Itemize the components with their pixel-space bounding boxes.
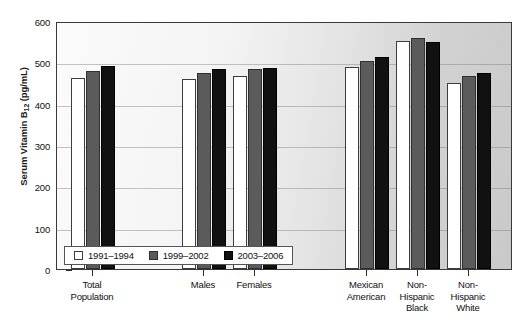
legend-item: 1999–2002 xyxy=(149,250,209,261)
bar xyxy=(182,79,196,269)
y-axis-tick-label: 400 xyxy=(20,99,50,110)
x-axis-tick-mark xyxy=(366,270,367,276)
bar xyxy=(447,83,461,269)
y-axis-tick-label: 600 xyxy=(20,17,50,28)
grid-line xyxy=(57,147,511,148)
x-axis-category-line: Non- xyxy=(425,279,511,291)
y-axis-tick-label: 300 xyxy=(20,141,50,152)
bar xyxy=(197,73,211,269)
bar xyxy=(248,69,262,269)
bar xyxy=(263,68,277,269)
bar xyxy=(345,67,359,269)
x-axis-tick-mark xyxy=(203,270,204,276)
x-axis-category-line: White xyxy=(425,302,511,314)
grid-line xyxy=(57,64,511,65)
bar xyxy=(101,66,115,269)
y-axis-tick-label: 100 xyxy=(20,223,50,234)
x-axis-category-line: Population xyxy=(49,291,135,303)
chart-legend: 1991–1994 1999–2002 2003–2006 xyxy=(64,246,293,265)
x-axis-category-line: Females xyxy=(211,279,297,291)
bar xyxy=(375,57,389,269)
bar xyxy=(71,78,85,269)
x-axis-labels: TotalPopulationMalesFemalesMexicanAmeric… xyxy=(0,270,523,335)
legend-item: 1991–1994 xyxy=(74,250,134,261)
bar xyxy=(426,42,440,269)
legend-item-label: 1991–1994 xyxy=(88,250,134,261)
bar xyxy=(411,38,425,269)
x-axis-tick-mark xyxy=(92,270,93,276)
x-axis-category-line: Hispanic xyxy=(425,291,511,303)
y-axis-tick-label: 500 xyxy=(20,58,50,69)
x-axis-category-label: Females xyxy=(211,279,297,291)
legend-swatch-icon xyxy=(74,251,83,260)
x-axis-tick-mark xyxy=(468,270,469,276)
bar xyxy=(396,41,410,269)
x-axis-tick-mark xyxy=(417,270,418,276)
grid-line xyxy=(57,230,511,231)
x-axis-tick-mark xyxy=(254,270,255,276)
bar xyxy=(212,69,226,269)
grid-line xyxy=(57,188,511,189)
legend-item-label: 1999–2002 xyxy=(163,250,209,261)
bar xyxy=(477,73,491,269)
x-axis-category-line: Total xyxy=(49,279,135,291)
bar xyxy=(86,71,100,269)
legend-swatch-icon xyxy=(224,251,233,260)
y-axis-tick-label: 200 xyxy=(20,182,50,193)
plot-area: 1991–1994 1999–2002 2003–2006 xyxy=(56,22,512,270)
bar xyxy=(462,76,476,269)
bar xyxy=(233,76,247,269)
grid-line xyxy=(57,106,511,107)
legend-item: 2003–2006 xyxy=(224,250,284,261)
bar xyxy=(360,61,374,269)
legend-item-label: 2003–2006 xyxy=(238,250,284,261)
x-axis-category-label: TotalPopulation xyxy=(49,279,135,302)
x-axis-category-label: Non-HispanicWhite xyxy=(425,279,511,314)
legend-swatch-icon xyxy=(149,251,158,260)
chart-figure: Serum Vitamin B12 (pg/mL) 01002003004005… xyxy=(0,0,523,335)
